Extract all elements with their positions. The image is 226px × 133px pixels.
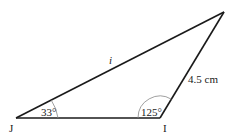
side-label-i: i (109, 54, 112, 66)
angle-label-i: 125° (141, 106, 162, 118)
triangle-diagram: 33° 125° i 4.5 cm J I (0, 0, 226, 133)
angle-label-j: 33° (41, 106, 56, 118)
vertex-label-i: I (163, 122, 167, 133)
side-label-length: 4.5 cm (188, 73, 218, 85)
vertex-label-j: J (9, 122, 14, 133)
